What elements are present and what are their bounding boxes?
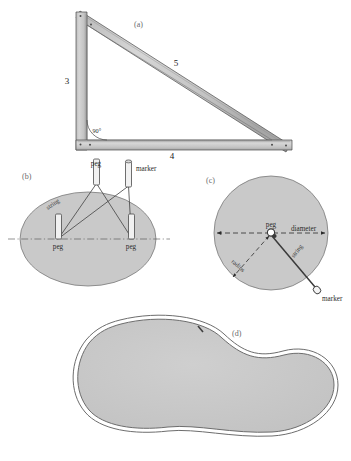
panel-c-circle: (c) peg diameter radius string marker bbox=[206, 176, 343, 303]
label-side-4: 4 bbox=[170, 151, 175, 161]
label-peg-right: peg bbox=[126, 243, 137, 251]
label-side-3: 3 bbox=[65, 76, 70, 86]
label-side-5: 5 bbox=[174, 58, 179, 68]
panel-b-label: (b) bbox=[22, 172, 32, 181]
peg-left-pin bbox=[56, 214, 62, 239]
panel-c-label: (c) bbox=[206, 176, 215, 185]
panel-a-right-triangle: (a) 3 5 4 90° bbox=[65, 11, 292, 161]
panel-a-label: (a) bbox=[134, 20, 143, 29]
label-peg-top: peg bbox=[91, 160, 102, 168]
label-peg-c: peg bbox=[266, 221, 277, 229]
label-right-angle: 90° bbox=[93, 127, 102, 134]
panel-b-ellipse: (b) peg marker peg peg string bbox=[8, 159, 170, 286]
label-peg-left: peg bbox=[53, 243, 64, 251]
figure-svg: (a) 3 5 4 90° bbox=[0, 0, 351, 461]
blob-inner-rope bbox=[78, 319, 334, 432]
horizontal-ruler bbox=[76, 140, 292, 150]
label-marker-c: marker bbox=[322, 295, 343, 303]
label-diameter: diameter bbox=[291, 225, 317, 233]
triangle-inner-edges bbox=[87, 25, 272, 140]
figure-root: (a) 3 5 4 90° bbox=[0, 0, 351, 461]
panel-d-irregular-curve: (d) bbox=[73, 315, 338, 436]
peg-right-pin bbox=[129, 214, 135, 239]
string-knot bbox=[272, 234, 276, 238]
marker-tip bbox=[126, 160, 132, 163]
marker-c bbox=[312, 285, 322, 295]
label-marker-b: marker bbox=[136, 165, 157, 173]
vertical-ruler bbox=[76, 12, 87, 150]
marker-pin bbox=[126, 161, 132, 187]
hypotenuse-ruler bbox=[76, 11, 290, 152]
panel-d-label: (d) bbox=[232, 329, 242, 338]
